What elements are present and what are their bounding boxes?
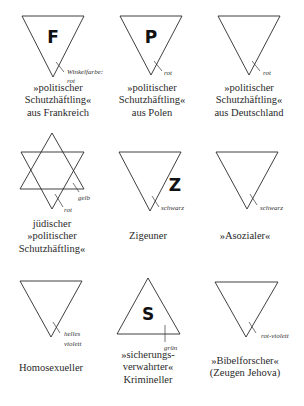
- color-label: rot-violett: [261, 332, 290, 340]
- badge-letter: P: [145, 27, 157, 47]
- badge-letter: Z: [169, 175, 181, 195]
- color-label: gelb: [78, 194, 91, 202]
- color-label: rot: [164, 69, 173, 77]
- badge-gypsy: Z schwarz: [119, 152, 184, 212]
- caption-line: aus Polen: [119, 107, 186, 119]
- badge-letter: F: [47, 27, 59, 47]
- caption-line: Schutzhäftling«: [19, 243, 86, 255]
- badge-political-poland: P rot: [120, 16, 182, 77]
- caption-line: »politischer: [119, 82, 186, 94]
- caption-gypsy: Zigeuner: [129, 230, 167, 242]
- leader-line: [249, 322, 256, 333]
- color-label: violett: [64, 340, 83, 348]
- caption-political-germany: »politischer Schutzhäftling« aus Deutsch…: [214, 82, 283, 119]
- triangle-down-icon: [218, 16, 280, 75]
- triangle-down-icon: [215, 282, 278, 337]
- color-label: rot: [263, 69, 272, 77]
- color-label: rot: [64, 206, 73, 214]
- caption-line: aus Frankreich: [25, 107, 92, 119]
- badge-drawings: F Winkelfarbe: rot P rot rot rot gelb: [0, 0, 304, 406]
- caption-line: Krimineller: [121, 374, 175, 386]
- caption-line: aus Deutschland: [214, 107, 283, 119]
- triangle-down-icon: [216, 152, 278, 209]
- color-label: Winkelfarbe:: [67, 68, 103, 76]
- leader-line: [250, 194, 257, 205]
- leader-line: [73, 183, 79, 192]
- triangle-down-icon: [21, 152, 84, 209]
- badge-letter: S: [142, 304, 154, 324]
- badge-jewish-political: rot gelb: [20, 133, 91, 214]
- triangle-down-icon: [20, 281, 82, 337]
- caption-line: »politischer: [25, 82, 92, 94]
- caption-line: Schutzhäftling«: [25, 94, 92, 106]
- badge-political-germany: rot: [218, 16, 280, 77]
- triangle-up-icon: [20, 133, 84, 189]
- caption-homosexual: Homosexueller: [19, 362, 83, 374]
- badge-asocial: schwarz: [216, 152, 283, 212]
- caption-jehovahs-witness: »Bibelforscher« (Zeugen Jehova): [210, 355, 280, 380]
- caption-line: »politischer: [19, 230, 86, 242]
- badge-political-france: F Winkelfarbe: rot: [22, 16, 103, 85]
- badge-homosexual: helles violett: [20, 281, 83, 348]
- color-label: helles: [64, 330, 81, 338]
- badge-criminal: S grün: [117, 278, 180, 352]
- caption-line: jüdischer: [19, 218, 86, 230]
- caption-line: »Bibelforscher«: [210, 355, 280, 367]
- caption-line: verwahrter«: [121, 361, 175, 373]
- caption-line: »Asozialer«: [220, 230, 271, 242]
- caption-line: »sicherungs-: [121, 349, 175, 361]
- caption-line: Zigeuner: [129, 230, 167, 242]
- caption-line: Schutzhäftling«: [119, 94, 186, 106]
- color-label: schwarz: [260, 204, 283, 212]
- badge-chart: F Winkelfarbe: rot P rot rot rot gelb: [0, 0, 304, 406]
- badge-jehovahs-witness: rot-violett: [215, 282, 290, 340]
- caption-criminal: »sicherungs- verwahrter« Krimineller: [121, 349, 175, 386]
- caption-line: Homosexueller: [19, 362, 83, 374]
- caption-asocial: »Asozialer«: [220, 230, 271, 242]
- caption-line: (Zeugen Jehova): [210, 367, 280, 379]
- color-label: schwarz: [161, 204, 184, 212]
- caption-line: Schutzhäftling«: [214, 94, 283, 106]
- caption-political-poland: »politischer Schutzhäftling« aus Polen: [119, 82, 186, 119]
- caption-political-france: »politischer Schutzhäftling« aus Frankre…: [25, 82, 92, 119]
- caption-line: »politischer: [214, 82, 283, 94]
- caption-jewish-political: jüdischer »politischer Schutzhäftling«: [19, 218, 86, 255]
